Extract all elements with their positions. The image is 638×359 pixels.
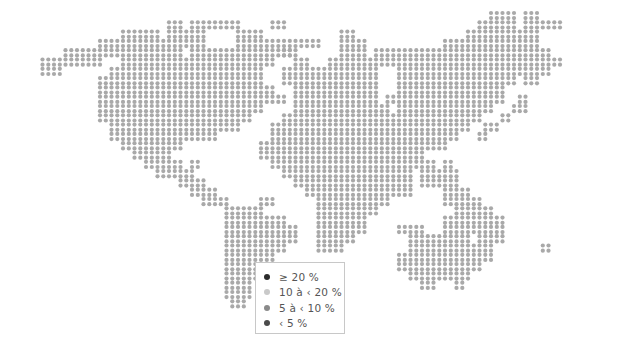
legend-dot-icon: [264, 274, 270, 280]
legend-item-lt5: ‹ 5 %: [264, 316, 344, 332]
legend-dot-icon: [264, 289, 270, 295]
legend-dot-icon: [264, 320, 270, 326]
legend: ≥ 20 % 10 à ‹ 20 % 5 à ‹ 10 % ‹ 5 %: [255, 262, 345, 334]
legend-label: 5 à ‹ 10 %: [279, 302, 335, 314]
legend-item-10to20: 10 à ‹ 20 %: [264, 285, 344, 301]
legend-item-ge20: ≥ 20 %: [264, 269, 344, 285]
legend-label: ≥ 20 %: [279, 271, 319, 283]
legend-label: 10 à ‹ 20 %: [279, 286, 342, 298]
legend-label: ‹ 5 %: [279, 317, 308, 329]
legend-item-5to10: 5 à ‹ 10 %: [264, 300, 344, 316]
legend-dot-icon: [264, 305, 270, 311]
